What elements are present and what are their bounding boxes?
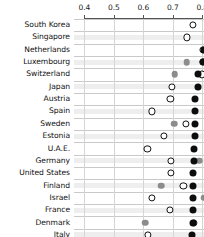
x-gridline bbox=[173, 19, 174, 237]
row-gridline bbox=[74, 204, 204, 205]
data-point-gray bbox=[171, 121, 178, 128]
row-gridline bbox=[74, 44, 204, 45]
row-gridline bbox=[74, 93, 204, 94]
category-label: Denmark bbox=[35, 219, 70, 227]
row-band bbox=[74, 84, 204, 89]
data-point-open bbox=[189, 21, 196, 28]
data-point-gray bbox=[158, 182, 165, 189]
row-gridline bbox=[74, 142, 204, 143]
data-point-black bbox=[189, 219, 196, 226]
data-point-black bbox=[190, 157, 197, 164]
category-label: France bbox=[45, 206, 70, 214]
data-point-black bbox=[189, 207, 196, 214]
row-gridline bbox=[74, 118, 204, 119]
data-point-open bbox=[182, 120, 189, 127]
row-gridline bbox=[74, 179, 204, 180]
row-gridline bbox=[74, 192, 204, 193]
data-point-black bbox=[191, 133, 198, 140]
data-point-black bbox=[189, 194, 196, 201]
category-label: Spain bbox=[49, 107, 70, 115]
row-gridline bbox=[74, 81, 204, 82]
category-label: Singapore bbox=[32, 33, 70, 41]
data-point-black bbox=[189, 231, 196, 237]
category-label: Switzerland bbox=[26, 70, 70, 78]
x-axis-tick-label: 0.7 bbox=[167, 3, 179, 12]
data-point-black bbox=[192, 96, 199, 103]
row-band bbox=[74, 134, 204, 139]
data-point-black bbox=[194, 71, 201, 78]
data-point-black bbox=[194, 83, 201, 90]
row-gridline bbox=[74, 167, 204, 168]
x-axis-tick-label: 0.5 bbox=[108, 3, 120, 12]
data-point-black bbox=[190, 145, 197, 152]
category-label: Italy bbox=[54, 231, 70, 237]
data-point-open bbox=[168, 157, 175, 164]
data-point-open bbox=[169, 83, 176, 90]
category-label: Luxembourg bbox=[23, 58, 70, 66]
row-band bbox=[74, 109, 204, 114]
row-gridline bbox=[74, 105, 204, 106]
data-point-open bbox=[180, 182, 187, 189]
row-gridline bbox=[74, 216, 204, 217]
row-gridline bbox=[74, 155, 204, 156]
x-axis-tick-label: 0.6 bbox=[137, 3, 149, 12]
data-point-gray bbox=[183, 59, 190, 66]
category-label: South Korea bbox=[25, 21, 70, 29]
x-gridline bbox=[84, 19, 85, 237]
category-label: Finland bbox=[43, 182, 70, 190]
x-axis-tick-label: 0.8 bbox=[196, 3, 204, 12]
row-gridline bbox=[74, 68, 204, 69]
data-point-black bbox=[192, 120, 199, 127]
data-point-gray bbox=[172, 71, 179, 78]
data-point-open bbox=[148, 108, 155, 115]
data-point-open bbox=[148, 194, 155, 201]
category-label: Israel bbox=[50, 194, 70, 202]
row-band bbox=[74, 208, 204, 213]
plot-area bbox=[74, 18, 204, 237]
x-gridline bbox=[143, 19, 144, 237]
data-point-gray bbox=[142, 219, 149, 226]
data-point-black bbox=[189, 182, 196, 189]
data-point-open bbox=[145, 231, 152, 237]
x-gridline bbox=[114, 19, 115, 237]
data-point-open bbox=[183, 34, 190, 41]
data-point-open bbox=[160, 133, 167, 140]
category-axis: South KoreaSingaporeNetherlandsLuxembour… bbox=[0, 0, 74, 237]
row-gridline bbox=[74, 56, 204, 57]
row-band bbox=[74, 232, 204, 237]
category-label: Sweden bbox=[40, 120, 70, 128]
x-axis-tick-label: 0.4 bbox=[78, 3, 90, 12]
category-label: Netherlands bbox=[24, 46, 70, 54]
data-point-black bbox=[200, 46, 204, 53]
category-label: Japan bbox=[49, 83, 70, 91]
row-gridline bbox=[74, 130, 204, 131]
data-point-black bbox=[192, 108, 199, 115]
row-band bbox=[74, 158, 204, 163]
category-label: Estonia bbox=[42, 132, 70, 140]
row-gridline bbox=[74, 31, 204, 32]
category-label: U.A.E. bbox=[48, 145, 70, 153]
data-point-black bbox=[200, 59, 204, 66]
row-gridline bbox=[74, 229, 204, 230]
data-point-black bbox=[190, 170, 197, 177]
row-gridline bbox=[74, 19, 204, 20]
data-point-gray bbox=[201, 195, 204, 202]
category-label: Germany bbox=[35, 157, 70, 165]
dot-plot-chart: 0.40.50.60.70.8 South KoreaSingaporeNeth… bbox=[0, 0, 204, 237]
category-label: Austria bbox=[44, 95, 70, 103]
category-label: United States bbox=[19, 169, 70, 177]
data-point-open bbox=[144, 145, 151, 152]
